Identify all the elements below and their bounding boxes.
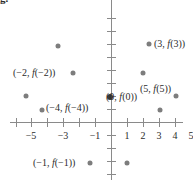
- y-axis-line: [111, 0, 112, 180]
- data-point-neg3: [56, 44, 61, 49]
- coordinate-plane-figure: g. −5 −3 −1 1 2 3 4 5 (−2, f(−2)) (−4, f…: [0, 0, 193, 180]
- x-tick-neg3: [63, 118, 64, 127]
- point-label-neg4-rest: (−4)): [68, 102, 89, 113]
- x-tick-neg4: [47, 118, 48, 127]
- y-tick-8: [107, 18, 116, 19]
- problem-number-fragment: g.: [0, 0, 8, 4]
- point-label-neg4-open: (−4,: [46, 102, 65, 113]
- data-point-1: [125, 161, 130, 166]
- y-tick-6: [107, 44, 116, 45]
- y-tick-7: [107, 31, 116, 32]
- data-point-4: [158, 108, 163, 113]
- point-label-3-rest: (3)): [170, 38, 185, 49]
- point-label-neg2: (−2, f(−2)): [13, 68, 55, 78]
- point-label-neg1-rest: (−1)): [55, 157, 76, 168]
- data-point-3: [147, 42, 152, 47]
- data-point-2: [141, 71, 146, 76]
- y-tick-neg4: [107, 174, 116, 175]
- x-tick-neg2: [79, 118, 80, 127]
- x-tick-neg5: [31, 118, 32, 127]
- point-label-3: (3, f(3)): [154, 39, 185, 49]
- point-label-5-rest: (5)): [156, 83, 171, 94]
- x-axis-line: [10, 122, 183, 123]
- data-point-neg5: [24, 94, 29, 99]
- y-tick-4: [107, 70, 116, 71]
- x-tick-label-neg5: −5: [23, 131, 39, 141]
- point-label-neg1-open: (−1,: [33, 157, 52, 168]
- data-point-5: [174, 94, 179, 99]
- y-tick-1: [107, 109, 116, 110]
- y-tick-neg2: [107, 148, 116, 149]
- y-tick-neg3: [107, 161, 116, 162]
- point-label-3-open: (3,: [154, 38, 167, 49]
- point-label-5: (5, f(5)): [140, 84, 171, 94]
- y-tick-3: [107, 83, 116, 84]
- x-tick-label-1: 1: [119, 131, 135, 141]
- x-tick-3: [159, 118, 160, 127]
- x-tick-1: [127, 118, 128, 127]
- point-label-0-open: (0,: [106, 91, 119, 102]
- x-tick-label-neg1: −1: [87, 131, 103, 141]
- point-label-0-rest: (0)): [122, 91, 137, 102]
- x-tick-label-neg3: −3: [55, 131, 71, 141]
- x-tick-2: [143, 118, 144, 127]
- x-tick-label-3: 3: [151, 131, 167, 141]
- data-point-neg4: [40, 108, 45, 113]
- point-label-5-open: (5,: [140, 83, 153, 94]
- point-label-0: (0, f(0)): [106, 92, 137, 102]
- x-tick-4: [175, 118, 176, 127]
- x-tick-label-2: 2: [135, 131, 151, 141]
- x-tick-label-4: 4: [167, 131, 183, 141]
- data-point-neg2: [71, 71, 76, 76]
- y-tick-5: [107, 57, 116, 58]
- x-tick-neg6: [16, 118, 17, 127]
- y-tick-neg1: [107, 135, 116, 136]
- x-tick-label-5: 5: [183, 131, 193, 141]
- x-tick-neg1: [95, 118, 96, 127]
- point-label-neg4: (−4, f(−4)): [46, 103, 88, 113]
- data-point-neg1: [88, 161, 93, 166]
- point-label-neg2-open: (−2,: [13, 67, 32, 78]
- point-label-neg2-rest: (−2)): [35, 67, 56, 78]
- point-label-neg1: (−1, f(−1)): [33, 158, 75, 168]
